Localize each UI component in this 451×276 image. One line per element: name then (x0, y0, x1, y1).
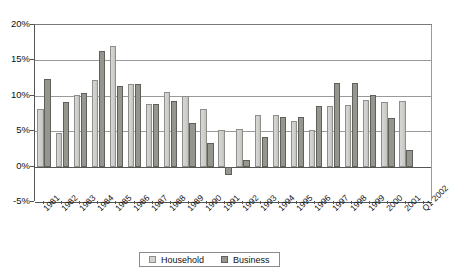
bar-business-1998 (352, 83, 358, 167)
bar-household-1995 (291, 121, 297, 166)
bar-business-1996 (316, 106, 322, 167)
y-axis-tick-label: 15% (0, 53, 30, 64)
bar-household-1985 (110, 46, 116, 166)
bar-household-1990 (200, 109, 206, 167)
bar-household-1987 (146, 104, 152, 166)
legend-label-household: Household (161, 255, 204, 265)
bar-household-1992 (236, 129, 242, 167)
bar-business-1985 (117, 86, 123, 167)
bar-business-2001 (406, 150, 412, 167)
y-axis-tick-label: 5% (0, 124, 30, 135)
bar-household-1997 (327, 106, 333, 166)
bar-household-1981 (37, 109, 43, 166)
bar-household-1982 (56, 133, 62, 167)
bar-household-1993 (255, 115, 261, 167)
bar-business-1997 (334, 83, 340, 167)
bar-business-1990 (207, 143, 213, 167)
bar-business-1984 (99, 51, 105, 166)
bar-business-1983 (81, 93, 87, 167)
legend-label-business: Business (233, 255, 270, 265)
plot-area (34, 24, 432, 201)
bar-business-1994 (280, 117, 286, 167)
bar-business-1999 (370, 95, 376, 167)
bar-household-1999 (363, 100, 369, 167)
bar-business-1982 (63, 102, 69, 166)
bar-household-2000 (381, 102, 387, 166)
bar-business-1993 (262, 137, 268, 167)
bar-business-1989 (189, 123, 195, 167)
bar-household-1991 (218, 130, 224, 167)
bar-household-1994 (273, 115, 279, 167)
bar-business-1992 (243, 160, 249, 166)
bar-household-1996 (309, 130, 315, 167)
y-axis-tick-label: -5% (0, 195, 30, 206)
bar-business-1981 (44, 79, 50, 167)
bar-household-1984 (92, 80, 98, 167)
x-axis-labels: 1981198219831984198519861987198819891990… (34, 201, 432, 247)
bar-household-2001 (399, 101, 405, 167)
bar-business-1988 (171, 101, 177, 167)
bar-household-1988 (164, 92, 170, 167)
legend-swatch-business-icon (221, 256, 228, 263)
bar-business-2000 (388, 118, 394, 166)
y-axis-tick-label: 0% (0, 160, 30, 171)
legend-swatch-household-icon (149, 256, 156, 263)
bar-household-1986 (128, 84, 134, 166)
bar-business-1991 (225, 167, 231, 176)
bar-household-1998 (345, 105, 351, 167)
y-axis-tick-label: 10% (0, 89, 30, 100)
bar-business-1987 (153, 104, 159, 166)
bar-household-1983 (74, 95, 80, 167)
legend-item-household[interactable]: Household (149, 255, 204, 265)
bar-household-1989 (182, 96, 188, 167)
chart-legend: Household Business (139, 252, 280, 267)
bar-business-1995 (298, 117, 304, 167)
bar-business-1986 (135, 84, 141, 166)
bars-layer (35, 25, 432, 201)
legend-item-business[interactable]: Business (221, 255, 270, 265)
y-axis-tick-label: 20% (0, 18, 30, 29)
